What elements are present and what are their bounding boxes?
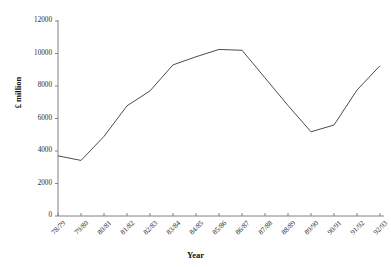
y-axis-title: £ million bbox=[14, 58, 23, 128]
x-axis-title: Year bbox=[0, 250, 391, 260]
line-chart: 020004000600080001000012000 78/7979/8080… bbox=[0, 0, 391, 267]
y-tick-label: 10000 bbox=[0, 50, 52, 57]
y-tick-label: 6000 bbox=[0, 115, 52, 122]
y-tick-label: 12000 bbox=[0, 17, 52, 24]
y-tick-label: 2000 bbox=[0, 180, 52, 187]
y-tick-label: 4000 bbox=[0, 147, 52, 154]
data-series-line bbox=[58, 49, 380, 160]
y-tick-label: 0 bbox=[0, 212, 52, 219]
y-tick-label: 8000 bbox=[0, 82, 52, 89]
